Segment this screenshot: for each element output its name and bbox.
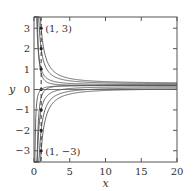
y-tick-label: −2 <box>15 125 30 136</box>
initial-point <box>40 149 43 152</box>
x-tick-label: 15 <box>135 166 148 177</box>
x-tick-label: 20 <box>171 166 184 177</box>
initial-point <box>40 108 43 111</box>
y-tick-label: −3 <box>15 145 30 156</box>
annotations: (1, 3)(1, −3) <box>45 23 80 157</box>
x-tick-label: 0 <box>31 166 37 177</box>
point-annotation: (1, 3) <box>45 23 72 34</box>
x-tick-label: 10 <box>99 166 112 177</box>
initial-point <box>40 27 43 30</box>
initial-point <box>40 67 43 70</box>
x-axis-label: x <box>102 177 109 190</box>
point-annotation: (1, −3) <box>45 146 80 157</box>
initial-point <box>40 129 43 132</box>
y-tick-label: 0 <box>24 84 30 95</box>
y-axis-label: y <box>8 83 16 96</box>
direction-field-chart: 05101520 −3−2−10123 x y (1, 3)(1, −3) <box>0 0 193 191</box>
y-tick-label: 1 <box>24 64 30 75</box>
y-tick-label: 3 <box>24 23 30 34</box>
y-tick-label: 2 <box>24 43 30 54</box>
x-tick-label: 5 <box>67 166 73 177</box>
initial-point <box>40 47 43 50</box>
y-tick-label: −1 <box>15 104 30 115</box>
